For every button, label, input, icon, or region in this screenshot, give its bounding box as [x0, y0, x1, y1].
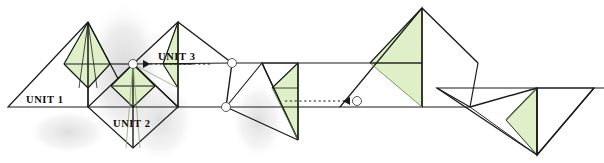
joint-marker-a-icon: [129, 60, 138, 69]
diagram-canvas: UNIT 1 UNIT 2 UNIT 3: [0, 0, 604, 163]
background-shadow: [28, 0, 284, 162]
unit-6-shape: [437, 88, 604, 155]
unit-2-label: UNIT 2: [113, 118, 151, 129]
unit-1-label: UNIT 1: [26, 94, 64, 105]
joint-marker-c-icon: [222, 103, 231, 112]
unit-5-shaded-face: [370, 8, 422, 107]
joint-marker-d-icon: [353, 97, 362, 106]
unit-assembly-diagram: UNIT 1 UNIT 2 UNIT 3: [0, 0, 604, 163]
unit-5-shape: [298, 8, 478, 107]
unit-3-label: UNIT 3: [158, 51, 196, 62]
joint-marker-b-icon: [228, 59, 237, 68]
